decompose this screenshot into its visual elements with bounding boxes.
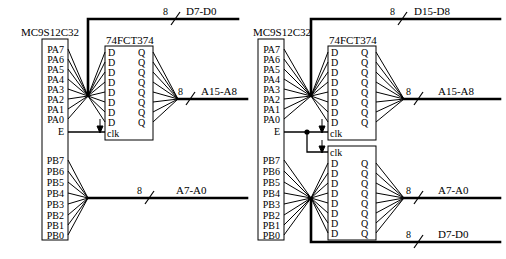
latch-2-2-q-7: Q <box>361 228 369 239</box>
mcu-pin-pb3-2: PB3 <box>263 199 280 210</box>
mcu-pin-pa0-2: PA0 <box>263 114 280 125</box>
mcu-pin-pb6-2: PB6 <box>263 166 280 177</box>
figure-canvas: MC9S12C32 PA7 PA6 PA5 PA4 PA3 PA2 PA1 PA… <box>0 0 506 259</box>
panel-right: MC9S12C32 PA7 PA6 PA5 PA4 PA3 PA2 PA1 PA… <box>253 5 500 248</box>
latch-2-1-label: 74FCT374 <box>329 34 377 46</box>
bus-a15-a8-label-2: A15-A8 <box>438 85 475 97</box>
latch-2-1-q-fanin-bundle <box>376 52 404 122</box>
bus-a15-a8-width-2: 8 <box>406 86 411 97</box>
mcu-label-2: MC9S12C32 <box>253 26 311 38</box>
bus-d15-d8-label: D15-D8 <box>414 5 451 17</box>
mcu-pin-pb0: PB0 <box>47 230 64 241</box>
mcu-pin-e: E <box>58 126 64 137</box>
bus-d7-d0-width: 8 <box>163 6 168 17</box>
mcu-pin-pb5: PB5 <box>47 177 64 188</box>
clock-junction-dot <box>304 129 309 134</box>
latch-2-1-d-fanout-bundle <box>311 52 328 122</box>
bus-d7-d0-width-2: 8 <box>406 229 411 240</box>
latch-1-q-fanin-bundle <box>153 52 178 122</box>
clock-edge-arrow-3 <box>319 140 325 153</box>
latch-2-2-d-fanout-bundle <box>311 163 328 233</box>
bus-d7-d0-label-2: D7-D0 <box>438 228 469 240</box>
clock-edge-arrow <box>97 119 103 133</box>
port-a-fanin-bundle <box>68 49 88 119</box>
bus-a15-a8-width: 8 <box>178 86 183 97</box>
latch-1-clk-label: clk <box>107 128 119 139</box>
latch-2-2-clk-label: clk <box>330 147 342 158</box>
mcu-label: MC9S12C32 <box>21 26 79 38</box>
mcu-pin-e-2: E <box>274 126 280 137</box>
latch-2-1-q-7: Q <box>361 117 369 128</box>
bus-a7-a0-width-2: 8 <box>406 185 411 196</box>
mcu-pin-pb4-2: PB4 <box>263 188 280 199</box>
mcu-pin-pb6: PB6 <box>47 166 64 177</box>
bus-a15-a8-label: A15-A8 <box>201 85 238 97</box>
bus-a7-a0-width: 8 <box>137 185 142 196</box>
latch-2-2-q-fanin-bundle <box>376 163 404 233</box>
mcu-pin-pb4: PB4 <box>47 188 64 199</box>
bus-d7-d0-label: D7-D0 <box>186 5 217 17</box>
bus-a7-a0-label-2: A7-A0 <box>438 184 469 196</box>
port-a-fanin-bundle-2 <box>284 49 311 119</box>
latch-2-2-d-7: D <box>331 228 338 239</box>
port-b-fanin-bundle-2 <box>284 160 311 235</box>
panel-left: MC9S12C32 PA7 PA6 PA5 PA4 PA3 PA2 PA1 PA… <box>21 5 247 241</box>
clock-branch-wire <box>307 132 328 152</box>
latch-1-d-7: D <box>108 117 115 128</box>
latch-1-label: 74FCT374 <box>106 34 154 46</box>
mcu-pin-pb7: PB7 <box>47 155 64 166</box>
latch-1-q-7: Q <box>138 117 146 128</box>
mcu-pin-pb0-2: PB0 <box>263 230 280 241</box>
latch-2-1-d-7: D <box>331 117 338 128</box>
mcu-pin-pb7-2: PB7 <box>263 155 280 166</box>
mcu-pin-pa0: PA0 <box>47 114 64 125</box>
latch-1-d-fanout-bundle <box>88 52 105 122</box>
schematic-svg: MC9S12C32 PA7 PA6 PA5 PA4 PA3 PA2 PA1 PA… <box>0 0 506 259</box>
port-b-fanin-bundle <box>68 160 88 235</box>
latch-2-1-clk-label: clk <box>330 128 342 139</box>
bus-d15-d8-width: 8 <box>390 6 395 17</box>
clock-edge-arrow-2 <box>319 119 325 133</box>
bus-a7-a0-label: A7-A0 <box>176 184 207 196</box>
mcu-pin-pb5-2: PB5 <box>263 177 280 188</box>
mcu-pin-pb3: PB3 <box>47 199 64 210</box>
